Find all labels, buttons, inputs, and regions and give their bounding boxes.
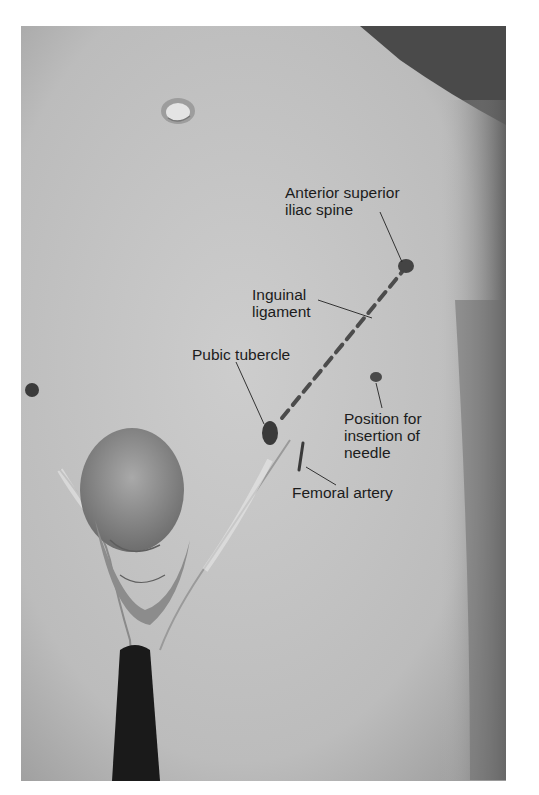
skin-background [21,26,506,781]
label-needle-line1: Position for [344,410,422,427]
label-pubic-tubercle: Pubic tubercle [192,346,290,363]
label-asis: Anterior superior iliac spine [285,184,400,218]
genital-region [80,428,184,552]
anatomy-figure [21,26,506,781]
label-asis-line1: Anterior superior [285,184,400,201]
label-asis-line2: iliac spine [285,201,400,218]
label-inguinal-ligament: Inguinal ligament [252,286,311,320]
label-inguinal-line1: Inguinal [252,286,311,303]
label-needle-line2: insertion of [344,427,422,444]
label-pubic-line1: Pubic tubercle [192,346,290,363]
needle-position-marker [370,372,382,382]
label-femoral-artery: Femoral artery [292,484,393,501]
edge-mark [25,383,39,397]
label-needle-position: Position for insertion of needle [344,410,422,461]
asis-marker [398,259,414,273]
label-inguinal-line2: ligament [252,303,311,320]
pubic-tubercle-marker [262,421,278,445]
label-femoral-line1: Femoral artery [292,484,393,501]
label-needle-line3: needle [344,444,422,461]
photo-illustration [21,26,506,781]
